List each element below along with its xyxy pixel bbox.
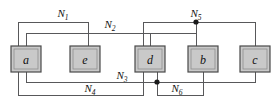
node-c[interactable]: c — [240, 46, 270, 72]
net-wire-n2 — [26, 33, 196, 46]
node-b[interactable]: b — [188, 46, 218, 72]
net-wire-n3 — [26, 72, 255, 82]
net-label-n1: N1 — [56, 7, 68, 22]
node-label-b: b — [200, 53, 206, 67]
net-label-n5: N5 — [189, 7, 201, 22]
net-label-n2: N2 — [103, 18, 115, 33]
node-label-e: e — [82, 53, 88, 67]
node-label-d: d — [147, 53, 154, 67]
node-d[interactable]: d — [135, 46, 165, 72]
node-a[interactable]: a — [11, 46, 41, 72]
nodes-layer: aedbc — [11, 46, 270, 72]
net-wire-n5 — [143, 22, 255, 46]
net-label-n4: N4 — [83, 82, 95, 97]
node-label-a: a — [23, 53, 29, 67]
node-e[interactable]: e — [70, 46, 100, 72]
node-label-c: c — [252, 53, 258, 67]
junction-n3-d-dot — [154, 79, 159, 84]
netlist-diagram-canvas: aedbc N1N2N3N4N5N6 — [0, 0, 278, 108]
net-label-n3: N3 — [115, 69, 127, 84]
netlist-diagram: aedbc N1N2N3N4N5N6 — [0, 0, 278, 108]
net-label-n6: N6 — [170, 82, 182, 97]
